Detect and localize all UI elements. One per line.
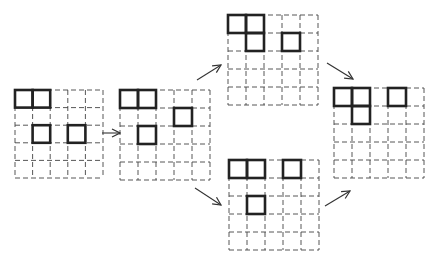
highlighted-cell [15,90,33,108]
grid-final [334,88,424,178]
highlighted-cell [282,33,300,51]
diagram-canvas [0,0,435,262]
highlighted-cell [33,90,51,108]
highlighted-cell [68,125,86,143]
grid-top [228,15,318,105]
highlighted-cell [388,88,406,106]
highlighted-cell [334,88,352,106]
arrows-layer [102,63,353,206]
highlighted-cell [33,125,51,143]
highlighted-cell [138,90,156,108]
highlighted-cell [174,108,192,126]
arrow-step2-to-bottom-icon [195,188,221,205]
grid-bottom [229,160,319,250]
arrow-top-to-final-icon [327,63,353,79]
highlighted-cell [283,160,301,178]
highlighted-cell [229,160,247,178]
highlighted-cell [247,196,265,214]
highlighted-cell [247,160,265,178]
arrow-step2-to-top-icon [197,65,221,80]
grid-step2 [120,90,210,180]
highlighted-cell [246,15,264,33]
highlighted-cell [246,33,264,51]
arrow-bottom-to-final-icon [325,191,350,206]
grids-layer [15,15,424,250]
highlighted-cell [352,106,370,124]
highlighted-cell [120,90,138,108]
highlighted-cell [352,88,370,106]
highlighted-cell [228,15,246,33]
highlighted-cell [138,126,156,144]
grid-start [15,90,103,178]
